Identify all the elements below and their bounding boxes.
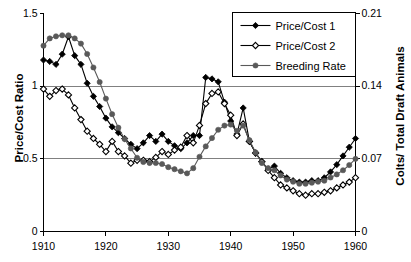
series-marker [266, 166, 271, 171]
series-marker [47, 36, 52, 41]
series-marker [90, 93, 96, 99]
series-marker [110, 112, 115, 117]
series-marker [209, 90, 215, 96]
series-marker [109, 138, 115, 144]
series-marker [315, 191, 321, 197]
series-marker [328, 175, 333, 180]
series-marker [116, 125, 121, 130]
legend-label: Price/Cost 2 [276, 40, 336, 52]
series-marker [284, 177, 289, 182]
series-marker [159, 161, 164, 166]
series-marker [135, 155, 140, 160]
series-marker [153, 160, 158, 165]
y-axis-right-tick-label: 0.07 [362, 152, 400, 164]
y-axis-left-tick-label: 1 [0, 79, 38, 91]
series-marker [78, 116, 84, 122]
series-marker [234, 128, 239, 133]
series-marker [241, 123, 246, 128]
series-marker [353, 156, 358, 161]
series-marker [303, 181, 308, 186]
series-marker [196, 122, 202, 128]
series-marker [284, 185, 290, 191]
series-line [44, 89, 356, 195]
series-marker [290, 188, 296, 194]
series-marker [122, 137, 127, 142]
legend-label: Breeding Rate [276, 60, 346, 72]
series-marker [209, 76, 215, 82]
series-marker [91, 65, 96, 70]
chart-plot-area: Price/Cost 1Price/Cost 2Breeding Rate [0, 0, 411, 262]
y-axis-right-tick-label: 0.21 [362, 7, 400, 19]
series-marker [216, 127, 221, 132]
series-marker [291, 179, 296, 184]
series-marker [315, 179, 320, 184]
series-marker [340, 168, 345, 173]
series-marker [259, 160, 264, 165]
series-marker [309, 180, 314, 185]
y-axis-left-tick-label: 1.5 [0, 7, 38, 19]
series-marker [247, 138, 252, 143]
series-marker [97, 103, 103, 109]
chart-figure: Price/Cost Ratio Colts/ Total Draft Anim… [0, 0, 411, 262]
series-marker [203, 144, 208, 149]
series-marker [47, 58, 53, 64]
series-marker [97, 79, 102, 84]
series-marker [334, 172, 339, 177]
series-marker [297, 181, 302, 186]
series-marker [203, 74, 209, 80]
x-axis-tick-label: 1940 [206, 240, 256, 252]
y-axis-right-tick-label: 0.14 [362, 79, 400, 91]
series-marker [278, 173, 283, 178]
series-marker [128, 146, 133, 151]
series-marker [253, 150, 258, 155]
series-marker [334, 185, 340, 191]
series-marker [178, 169, 183, 174]
series-marker [103, 96, 108, 101]
series-marker [59, 51, 65, 57]
series-marker [347, 162, 352, 167]
series-marker [340, 182, 346, 188]
series-marker [53, 61, 59, 67]
series-marker [191, 166, 196, 171]
series-marker [84, 80, 90, 86]
series-marker [60, 33, 65, 38]
legend-label: Price/Cost 1 [276, 20, 336, 32]
series-marker [147, 160, 152, 165]
series-marker [85, 51, 90, 56]
series-marker [327, 188, 333, 194]
series-marker [72, 105, 78, 111]
x-axis-tick-label: 1950 [268, 240, 318, 252]
series-marker [302, 192, 308, 198]
series-marker [209, 135, 214, 140]
series-marker [272, 168, 277, 173]
series-marker [184, 171, 189, 176]
y-axis-left-tick-label: 0 [0, 225, 38, 237]
x-axis-tick-label: 1920 [81, 240, 131, 252]
y-axis-right-tick-label: 0 [362, 225, 400, 237]
chart-legend: Price/Cost 1Price/Cost 2Breeding Rate [233, 13, 356, 77]
series-marker [40, 57, 46, 63]
series-marker [53, 34, 58, 39]
series-marker [240, 105, 246, 111]
series-marker [309, 191, 315, 197]
series-marker [197, 154, 202, 159]
series-marker [215, 79, 221, 85]
series-marker [296, 191, 302, 197]
series-marker [172, 167, 177, 172]
x-axis-tick-label: 1910 [19, 240, 69, 252]
series-marker [72, 36, 77, 41]
series-marker [141, 159, 146, 164]
series-marker [228, 122, 233, 127]
series-marker [66, 33, 71, 38]
series-marker [166, 165, 171, 170]
legend-marker-filled-circle [253, 63, 258, 68]
series-marker [322, 178, 327, 183]
x-axis-tick-label: 1960 [331, 240, 381, 252]
series-marker [222, 123, 227, 128]
series-marker [78, 41, 83, 46]
x-axis-tick-label: 1930 [143, 240, 193, 252]
series-marker [41, 43, 46, 48]
y-axis-left-tick-label: 0.5 [0, 152, 38, 164]
series-marker [321, 189, 327, 195]
series-marker [196, 132, 202, 138]
